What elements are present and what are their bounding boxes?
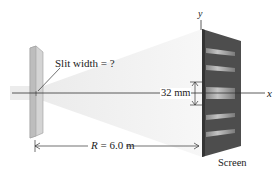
slit-width-label: Slit width = ? — [55, 58, 115, 69]
diagram-graphics — [0, 0, 276, 175]
screen-label: Screen — [218, 158, 247, 169]
y-axis-label: y — [198, 9, 202, 19]
diffraction-diagram: Slit width = ? 32 mm x y R = 6.0 m Scree… — [0, 0, 276, 175]
fringe-width-label: 32 mm — [160, 88, 191, 99]
distance-label: R = 6.0 m — [91, 140, 135, 151]
x-axis-label: x — [267, 88, 272, 99]
slit-plate — [30, 46, 43, 138]
